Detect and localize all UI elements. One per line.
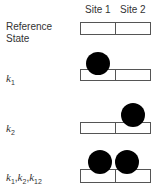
k1-site-2-box (115, 69, 151, 81)
k1-label-sub: 1 (11, 79, 15, 86)
site-1-header: Site 1 (85, 4, 111, 15)
k2-site-1-box (80, 122, 116, 134)
k2-label: k2 (6, 122, 15, 139)
k2-label-sub: 2 (11, 129, 15, 136)
ligand-circle-site-2 (115, 150, 139, 174)
k1-label: k1 (6, 72, 15, 89)
ligand-circle-site-2 (121, 103, 145, 127)
ligand-circle-site-1 (88, 150, 112, 174)
reference-label-line2: State (6, 33, 52, 45)
ligand-circle-site-1 (86, 52, 110, 75)
reference-label-line1: Reference (6, 21, 52, 33)
reference-state-label: Reference State (6, 21, 52, 45)
reference-site-1-box (80, 22, 116, 35)
site-2-header: Site 2 (120, 4, 146, 15)
reference-site-2-box (115, 22, 151, 35)
k1-k2-k12-label: k1,k2,k12 (6, 171, 42, 188)
k12-part-sub: 12 (34, 178, 42, 185)
